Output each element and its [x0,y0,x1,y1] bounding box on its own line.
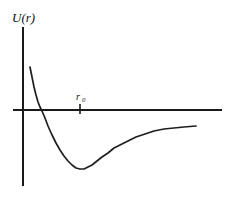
tick-label-r0: r 0 [76,91,86,103]
potential-curve [30,67,196,169]
y-axis-label: U(r) [12,10,35,25]
potential-energy-figure: U(r) r 0 [0,0,243,200]
tick-label-r0-subscript: 0 [82,96,86,103]
potential-energy-plot: U(r) r 0 [0,0,243,200]
tick-label-r0-base: r [76,91,80,102]
